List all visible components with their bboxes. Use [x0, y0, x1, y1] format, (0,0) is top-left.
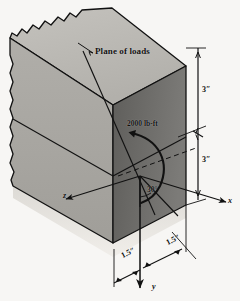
- axis-label-x: x: [228, 197, 232, 205]
- axis-label-z: z: [63, 192, 66, 200]
- plane-of-loads-label: Plane of loads: [95, 47, 150, 56]
- axis-label-y: y: [152, 283, 156, 291]
- dimension-vertical-bottom: 3″: [202, 156, 210, 164]
- dimension-vertical-top: 3″: [202, 86, 210, 94]
- angle-label: 30°: [147, 186, 158, 194]
- moment-label: 2000 lb-ft: [127, 120, 158, 128]
